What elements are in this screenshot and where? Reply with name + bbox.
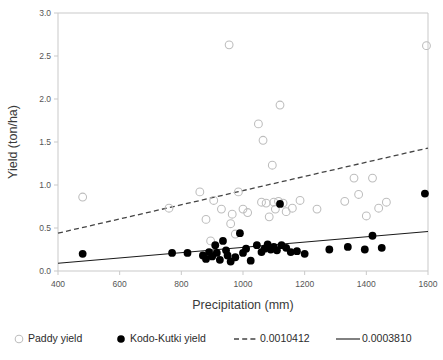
data-point [219, 237, 227, 245]
data-point [253, 241, 261, 249]
data-point [216, 256, 224, 264]
data-point [293, 247, 301, 255]
data-point [211, 241, 219, 249]
y-tick-label: 0.0 [39, 266, 51, 276]
data-point [344, 243, 352, 251]
data-point [242, 245, 250, 253]
data-point [301, 250, 309, 258]
data-point [369, 232, 377, 240]
data-point [218, 205, 226, 213]
data-point [255, 120, 263, 128]
data-point [325, 246, 333, 254]
x-tick-label: 800 [174, 279, 188, 289]
data-point [361, 246, 369, 254]
x-tick-label: 400 [51, 279, 65, 289]
data-point [196, 188, 204, 196]
data-point [231, 253, 239, 261]
data-point [265, 213, 273, 221]
data-point [296, 197, 304, 205]
x-tick-label: 1000 [234, 279, 253, 289]
data-point [375, 204, 383, 212]
data-point [262, 199, 270, 207]
data-point [79, 250, 87, 258]
y-axis-ticks: 0.00.51.01.52.02.53.0 [39, 8, 58, 276]
x-axis-ticks: 4006008001000120014001600 [51, 271, 438, 289]
data-point [378, 244, 386, 252]
x-tick-label: 1400 [357, 279, 376, 289]
data-point [168, 249, 176, 257]
legend-filled-circle-icon [117, 335, 125, 343]
data-point [423, 42, 431, 50]
chart-svg: 0.00.51.01.52.02.53.0 400600800100012001… [0, 0, 443, 360]
data-point [259, 136, 267, 144]
x-tick-label: 600 [113, 279, 127, 289]
y-tick-label: 1.5 [39, 137, 51, 147]
trendline-dashed [58, 148, 428, 233]
x-tick-label: 1200 [295, 279, 314, 289]
data-point [313, 205, 321, 213]
data-point [421, 190, 429, 198]
data-point [236, 229, 244, 237]
y-axis-title: Yield (ton/ha) [6, 105, 20, 179]
series-paddy-yield-points [79, 41, 431, 245]
data-point [369, 174, 377, 182]
data-point [225, 41, 233, 49]
legend-item-label: 0.0010412 [260, 332, 310, 344]
data-point [362, 212, 370, 220]
data-point [341, 197, 349, 205]
data-point [213, 249, 221, 257]
data-point [227, 220, 235, 228]
x-tick-label: 1600 [419, 279, 438, 289]
data-point [228, 210, 236, 218]
series-kodo-kutki-yield-points [79, 190, 429, 266]
data-point [79, 193, 87, 201]
data-point [350, 174, 358, 182]
data-point [202, 216, 210, 224]
data-point [276, 200, 284, 208]
legend-item-label: Paddy yield [28, 332, 82, 344]
y-tick-label: 0.5 [39, 223, 51, 233]
data-point [288, 204, 296, 212]
y-tick-label: 2.5 [39, 51, 51, 61]
data-point [355, 191, 363, 199]
data-point [276, 101, 284, 109]
chart-legend: Paddy yieldKodo-Kutki yield0.00104120.00… [15, 332, 412, 344]
legend-item-label: 0.0003810 [362, 332, 412, 344]
data-point [247, 257, 255, 265]
legend-item-label: Kodo-Kutki yield [130, 332, 206, 344]
data-point [268, 161, 276, 169]
legend-open-circle-icon [15, 335, 23, 343]
data-point [382, 198, 390, 206]
y-tick-label: 2.0 [39, 94, 51, 104]
data-point [184, 249, 192, 257]
scatter-chart-figure: 0.00.51.01.52.02.53.0 400600800100012001… [0, 0, 443, 360]
y-tick-label: 1.0 [39, 180, 51, 190]
y-tick-label: 3.0 [39, 8, 51, 18]
x-axis-title: Precipitation (mm) [192, 298, 293, 312]
